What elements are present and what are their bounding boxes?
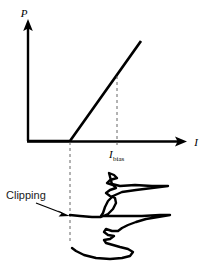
laser-li-curve-figure: P I I bias Clipping bbox=[0, 0, 210, 272]
clipping-callout: Clipping bbox=[6, 189, 70, 217]
clipping-leader-line bbox=[36, 203, 62, 213]
figure-canvas: P I I bias Clipping bbox=[0, 0, 210, 272]
li-characteristic-curve bbox=[28, 41, 141, 141]
axes-group bbox=[23, 19, 187, 147]
bias-current-label: I bias bbox=[108, 148, 125, 163]
clipping-arrowhead bbox=[58, 211, 70, 217]
y-axis-label: P bbox=[20, 7, 28, 19]
bias-current-subscript: bias bbox=[113, 155, 125, 163]
clipping-label: Clipping bbox=[6, 189, 46, 201]
x-axis-label: I bbox=[193, 136, 199, 148]
clipped-waveform bbox=[70, 173, 170, 259]
